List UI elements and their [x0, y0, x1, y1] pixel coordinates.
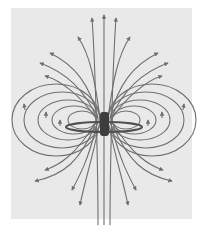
current-loop	[66, 112, 142, 136]
magnetic-field-diagram	[0, 0, 198, 241]
loop-core	[100, 112, 109, 136]
